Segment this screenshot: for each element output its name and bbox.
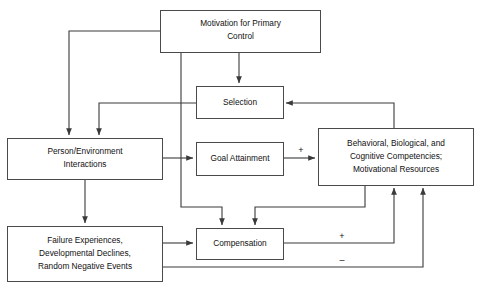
node-failure-experiences: Failure Experiences, Developmental Decli… bbox=[8, 227, 163, 282]
node-competencies-line-2: Motivational Resources bbox=[353, 164, 439, 174]
node-failure-experiences-line-0: Failure Experiences, bbox=[47, 235, 123, 245]
node-selection: Selection bbox=[197, 87, 284, 119]
node-goal-attainment-label: Goal Attainment bbox=[210, 153, 270, 163]
node-competencies: Behavioral, Biological, and Cognitive Co… bbox=[319, 129, 474, 186]
edge-motivation-to-compensation bbox=[181, 52, 222, 225]
node-compensation-label: Compensation bbox=[213, 238, 267, 248]
edge-competencies-to-compensation bbox=[255, 185, 365, 225]
node-competencies-line-0: Behavioral, Biological, and bbox=[347, 138, 445, 148]
node-motivation: Motivation for Primary Control bbox=[161, 11, 321, 53]
node-compensation: Compensation bbox=[197, 229, 284, 260]
node-person-environment: Person/Environment Interactions bbox=[8, 139, 163, 180]
node-motivation-line-1: Control bbox=[227, 31, 254, 41]
flowchart-canvas: Motivation for Primary Control Selection… bbox=[0, 0, 480, 291]
node-person-environment-line-0: Person/Environment bbox=[47, 146, 123, 156]
node-failure-experiences-line-1: Developmental Declines, bbox=[39, 248, 131, 258]
plus-sign-goal-to-competencies: + bbox=[298, 145, 303, 155]
node-selection-label: Selection bbox=[223, 97, 258, 107]
node-motivation-line-0: Motivation for Primary bbox=[200, 18, 282, 28]
plus-sign-compensation-to-competencies: + bbox=[339, 231, 344, 241]
node-goal-attainment: Goal Attainment bbox=[197, 143, 284, 176]
edge-motivation-to-person-environment bbox=[69, 31, 160, 135]
node-competencies-line-1: Cognitive Competencies; bbox=[350, 151, 442, 161]
node-person-environment-line-1: Interactions bbox=[64, 159, 107, 169]
minus-sign-failure-to-competencies: – bbox=[339, 255, 344, 265]
edge-competencies-to-selection bbox=[286, 103, 394, 128]
flowchart-diagram: Motivation for Primary Control Selection… bbox=[0, 0, 480, 291]
node-failure-experiences-line-2: Random Negative Events bbox=[38, 261, 132, 271]
